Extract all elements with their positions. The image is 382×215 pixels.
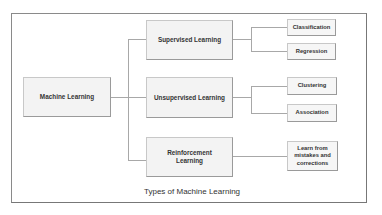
node-association: Association [287,104,337,122]
connector [233,97,251,98]
connector [128,39,129,161]
node-label: Classification [293,24,331,31]
connector [128,160,146,161]
node-reinforcement-learning: Reinforcement Learning [146,137,233,177]
connector [128,39,146,40]
node-clustering: Clustering [287,77,337,95]
connector [251,113,287,114]
node-label: Machine Learning [40,93,94,101]
node-label: Association [296,109,329,116]
node-label: Learn from mistakes and corrections [291,145,334,167]
connector [251,86,252,113]
connector [233,156,287,157]
node-label: Regression [296,48,328,55]
node-learn-from-mistakes: Learn from mistakes and corrections [287,141,338,171]
connector [251,27,252,51]
node-label: Reinforcement Learning [165,149,214,165]
node-supervised-learning: Supervised Learning [146,20,233,60]
connector [251,51,287,52]
node-machine-learning: Machine Learning [23,77,111,117]
diagram-caption: Types of Machine Learning [144,187,240,196]
node-label: Clustering [298,82,327,89]
node-label: Unsupervised Learning [154,94,225,102]
connector [251,86,287,87]
node-label: Supervised Learning [158,36,221,44]
connector [251,27,287,28]
node-unsupervised-learning: Unsupervised Learning [146,77,233,118]
node-regression: Regression [287,43,336,60]
connector [233,39,251,40]
node-classification: Classification [287,19,336,36]
